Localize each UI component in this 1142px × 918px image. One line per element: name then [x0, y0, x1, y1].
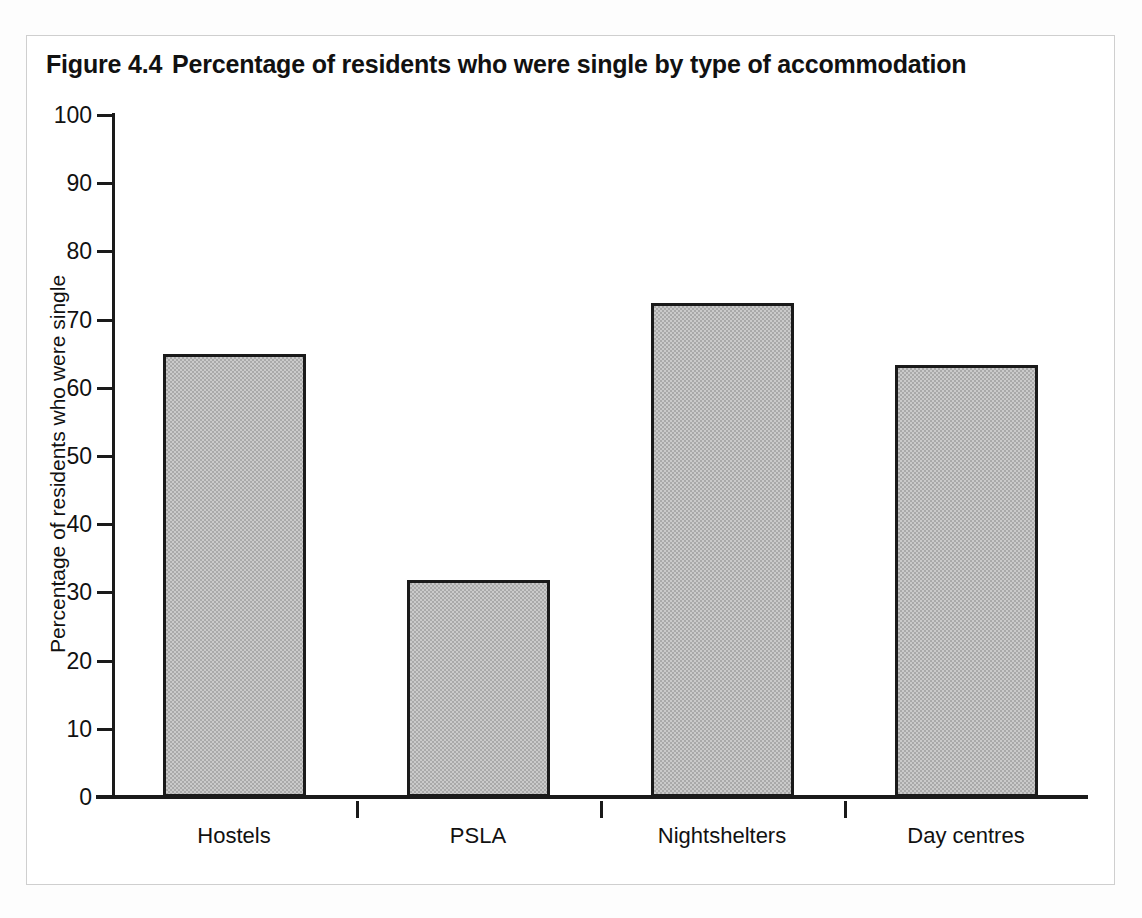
y-axis-tick-label: 70 [66, 309, 92, 332]
figure-container: Figure 4.4Percentage of residents who we… [0, 0, 1142, 918]
y-axis-tick [97, 728, 112, 731]
y-axis-tick-label: 50 [66, 445, 92, 468]
bar-hostels [163, 354, 306, 797]
figure-number: Figure 4.4 [46, 50, 162, 78]
y-axis-tick-label: 20 [66, 650, 92, 673]
y-axis-tick [97, 796, 112, 799]
bar-psla [407, 580, 550, 797]
y-axis-tick-label: 100 [54, 104, 92, 127]
y-axis-tick [97, 387, 112, 390]
y-axis-tick [97, 523, 112, 526]
y-axis-tick [97, 455, 112, 458]
y-axis-tick [97, 660, 112, 663]
y-axis-tick [97, 114, 112, 117]
y-axis-tick [97, 250, 112, 253]
page-title: Figure 4.4Percentage of residents who we… [46, 50, 1086, 79]
x-axis-tick-label: Nightshelters [600, 823, 844, 849]
y-axis-tick-label: 60 [66, 377, 92, 400]
x-axis-tick-label: Hostels [112, 823, 356, 849]
y-axis-tick-label: 90 [66, 172, 92, 195]
y-axis-tick [97, 591, 112, 594]
y-axis-tick-label: 40 [66, 513, 92, 536]
x-axis-tick-label: Day centres [844, 823, 1088, 849]
x-axis-tick [600, 801, 603, 818]
plot-area: 0102030405060708090100HostelsPSLANightsh… [112, 115, 1088, 797]
y-axis-tick-label: 10 [66, 718, 92, 741]
y-axis-tick [97, 319, 112, 322]
figure-title-text: Percentage of residents who were single … [172, 50, 966, 78]
y-axis-tick-label: 80 [66, 240, 92, 263]
x-axis-tick-label: PSLA [356, 823, 600, 849]
y-axis-tick [97, 182, 112, 185]
bar-day-centres [895, 365, 1038, 797]
x-axis-tick [844, 801, 847, 818]
y-axis-tick-label: 30 [66, 581, 92, 604]
x-axis-tick [356, 801, 359, 818]
y-axis-tick-label: 0 [79, 786, 92, 809]
bar-nightshelters [651, 303, 794, 797]
